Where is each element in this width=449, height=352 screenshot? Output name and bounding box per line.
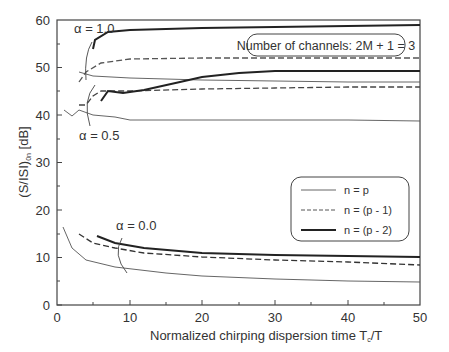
y-tick-label: 50 [36, 60, 50, 75]
x-tick-label: 10 [123, 310, 137, 325]
y-axis-label: (S/ISI)0n [dB] [16, 126, 32, 197]
x-axis-label: Normalized chirping dispersion time Tc/T [150, 328, 382, 343]
x-axis [93, 300, 384, 305]
legend-item: n = p [344, 184, 369, 196]
chart: 0 10 20 30 40 50 60 0 10 20 30 40 50 Nor… [0, 0, 449, 352]
legend-item: n = (p - 2) [344, 224, 392, 236]
y-axis [57, 44, 62, 305]
y-tick-label: 10 [36, 250, 50, 265]
channels-annotation: Number of channels: 2M + 1 = 3 [237, 39, 416, 53]
x-tick-label: 50 [413, 310, 427, 325]
y-tick-label: 30 [36, 155, 50, 170]
series-alpha-0.5 [64, 71, 420, 126]
y-tick-label: 20 [36, 203, 50, 218]
annotation-alpha-0.5: α = 0.5 [79, 128, 119, 143]
annotation-alpha-1: α = 1.0 [74, 21, 114, 36]
x-tick-label: 30 [268, 310, 282, 325]
legend-item: n = (p - 1) [344, 204, 392, 216]
y-tick-label: 40 [36, 108, 50, 123]
x-tick-label: 20 [195, 310, 209, 325]
legend: n = p n = (p - 1) n = (p - 2) [291, 177, 409, 241]
y-tick-label: 0 [43, 298, 50, 313]
x-tick-label: 40 [341, 310, 355, 325]
y-tick-label: 60 [36, 13, 50, 28]
x-tick-label: 0 [53, 310, 60, 325]
annotation-alpha-0: α = 0.0 [116, 218, 156, 233]
